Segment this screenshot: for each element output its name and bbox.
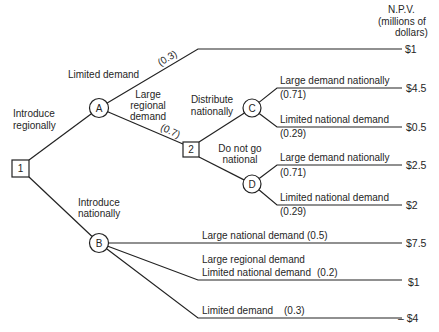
chance-node-d: D: [243, 175, 261, 193]
chance-node-label: D: [248, 179, 255, 190]
npv-b-large-national: $7.5: [406, 237, 427, 249]
probability-b-large-national: (0.5): [307, 230, 328, 241]
label-line: Large regional demand: [202, 254, 305, 265]
chance-node-label: C: [248, 103, 255, 114]
npv-b-large-regional: $1: [408, 276, 420, 288]
label-do-not-go-national: Do not go national: [218, 143, 262, 165]
label-d-limited-demand: Limited national demand: [280, 192, 389, 203]
decision-node-label: 1: [18, 163, 24, 174]
npv-c-limited: $0.5: [406, 121, 427, 133]
label-d-large-demand: Large demand nationally: [280, 152, 390, 163]
label-line: Introduce: [13, 108, 55, 119]
npv-c-large: $4.5: [406, 82, 427, 94]
label-line: nationally: [78, 208, 120, 219]
decision-node-2: 2: [183, 142, 199, 157]
label-introduce-regionally: Introduce regionally: [13, 108, 56, 131]
probability-a-limited: (0.3): [156, 48, 179, 68]
label-distribute-nationally: Distribute nationally: [191, 94, 234, 117]
npv-b-limited: – $4: [398, 312, 419, 324]
label-b-large-regional-limited-national: Large regional demand Limited national d…: [202, 254, 311, 278]
label-line: regionally: [13, 120, 56, 131]
chance-node-a: A: [90, 99, 109, 118]
label-line: Introduce: [78, 197, 120, 208]
npv-d-limited: $2: [406, 199, 418, 211]
probability-a-large: (0.7): [159, 121, 182, 140]
chance-node-c: C: [243, 99, 261, 117]
npv-column-header: N.P.V. (millions of dollars): [378, 4, 428, 38]
label-line: Limited national demand: [202, 267, 311, 278]
label-line: Distribute: [191, 94, 234, 105]
label-b-limited-demand: Limited demand: [202, 305, 273, 316]
npv-header-line1: N.P.V.: [388, 4, 415, 15]
probability-b-limited: (0.3): [284, 305, 305, 316]
label-c-large-demand: Large demand nationally: [280, 75, 390, 86]
npv-header-line3: dollars): [395, 27, 428, 38]
label-line: nationally: [191, 106, 233, 117]
label-line: Do not go: [218, 143, 262, 154]
branch-distribute-nationally: [199, 113, 244, 142]
chance-node-label: B: [96, 238, 103, 249]
probability-d-large: (0.71): [280, 167, 306, 178]
label-introduce-nationally: Introduce nationally: [78, 197, 120, 219]
label-line: Large: [135, 89, 161, 100]
label-a-limited-demand: Limited demand: [68, 69, 139, 80]
probability-b-large-regional: (0.2): [317, 267, 338, 278]
npv-d-large: $2.5: [406, 159, 427, 171]
probability-c-large: (0.71): [280, 89, 306, 100]
probability-c-limited: (0.29): [280, 128, 306, 139]
npv-a-limited: $1: [405, 43, 417, 55]
decision-node-label: 2: [188, 144, 194, 155]
label-a-large-regional-demand: Large regional demand: [130, 89, 166, 122]
probability-d-limited: (0.29): [280, 206, 306, 217]
chance-node-b: B: [90, 234, 109, 253]
npv-header-line2: (millions of: [378, 16, 426, 27]
chance-node-label: A: [96, 103, 103, 114]
decision-node-1: 1: [12, 160, 29, 177]
label-line: regional: [130, 100, 166, 111]
decision-tree-diagram: N.P.V. (millions of dollars) 1 A: [0, 0, 439, 332]
label-c-limited-demand: Limited national demand: [280, 114, 389, 125]
label-line: demand: [130, 111, 166, 122]
label-line: national: [222, 154, 257, 165]
npv-values: $1 $4.5 $0.5 $2.5 $2 $7.5 $1 – $4: [398, 43, 427, 324]
label-b-large-national-demand: Large national demand: [202, 230, 304, 241]
